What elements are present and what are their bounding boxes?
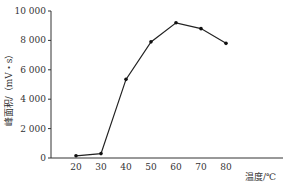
x-tick-label: 70: [195, 162, 207, 172]
x-tick-label: 30: [95, 162, 107, 172]
y-axis-title: 峰面积/（mV・s）: [3, 50, 14, 127]
data-point-marker: [149, 40, 153, 44]
y-tick-label: 2 000: [20, 124, 46, 134]
data-point-marker: [174, 21, 178, 25]
y-tick-label: 0: [40, 153, 46, 163]
y-tick-label: 10 000: [15, 6, 47, 16]
y-tick-label: 4 000: [20, 94, 46, 104]
x-axis-title: 温度/℃: [245, 171, 276, 182]
data-point-marker: [199, 27, 203, 31]
y-axis-ticks: 02 0004 0006 0008 00010 000: [15, 6, 52, 163]
y-tick-label: 8 000: [20, 35, 46, 45]
y-tick-label: 6 000: [20, 65, 46, 75]
x-tick-label: 60: [170, 162, 182, 172]
data-point-marker: [99, 152, 103, 156]
data-point-marker: [124, 78, 128, 82]
x-tick-label: 50: [145, 162, 157, 172]
line-chart: 02 0004 0006 0008 00010 000 203040506070…: [0, 0, 283, 195]
x-tick-label: 40: [120, 162, 132, 172]
x-tick-label: 80: [220, 162, 232, 172]
x-tick-label: 20: [70, 162, 82, 172]
data-point-marker: [224, 42, 228, 46]
data-point-markers: [74, 21, 228, 158]
x-axis-ticks: 20304050607080: [70, 162, 232, 172]
data-point-marker: [74, 154, 78, 158]
